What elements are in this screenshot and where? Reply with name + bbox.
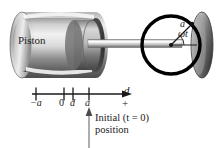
crank-angle-label: ωt	[178, 28, 188, 39]
axis-sign-label: +	[122, 97, 128, 109]
axis-tick-label-zero: 0	[59, 97, 64, 108]
initial-position-pointer	[86, 107, 93, 148]
caption-line-2: position	[95, 124, 149, 136]
arrow-up-icon	[86, 107, 93, 116]
physics-figure: Piston −a 0 d a d + a ωt Initial (t = 0)…	[0, 0, 224, 148]
piston-label: Piston	[18, 34, 46, 46]
axis-tick-label-a: a	[85, 97, 90, 108]
axis-tick-label-neg-a: −a	[30, 97, 42, 108]
initial-position-caption: Initial (t = 0) position	[95, 112, 149, 136]
caption-line-1: Initial (t = 0)	[95, 112, 149, 124]
axis-tick-label-d: d	[70, 97, 75, 108]
displacement-axis	[32, 88, 132, 101]
connecting-rod	[88, 40, 182, 48]
axis-arrow-label: d	[124, 84, 130, 96]
